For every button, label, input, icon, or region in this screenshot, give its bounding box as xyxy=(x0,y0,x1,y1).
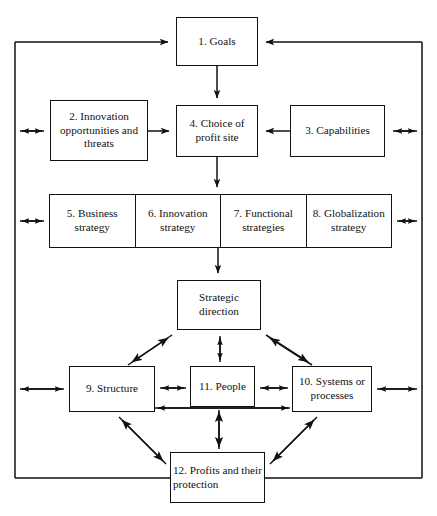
box-systems-or-processes[interactable]: 10. Systems or processes xyxy=(292,366,372,412)
box-choice-of-profit-site-label: 4. Choice of profit site xyxy=(177,117,257,145)
box-business-strategy-label: 5. Business strategy xyxy=(50,207,135,235)
box-structure-label: 9. Structure xyxy=(84,382,140,396)
box-functional-strategies[interactable]: 7. Functional strategies xyxy=(221,195,307,247)
arrow-strategic-direction-systems-b xyxy=(270,338,312,365)
box-choice-of-profit-site[interactable]: 4. Choice of profit site xyxy=(176,105,258,157)
arrow-systems-profits-b xyxy=(273,417,317,461)
box-structure[interactable]: 9. Structure xyxy=(69,366,155,412)
box-capabilities[interactable]: 3. Capabilities xyxy=(290,105,385,157)
strategy-row: 5. Business strategy 6. Innovation strat… xyxy=(49,194,392,248)
box-systems-or-processes-label: 10. Systems or processes xyxy=(293,375,371,403)
box-functional-strategies-label: 7. Functional strategies xyxy=(221,207,306,235)
box-goals[interactable]: 1. Goals xyxy=(176,17,258,66)
box-goals-label: 1. Goals xyxy=(196,35,237,49)
diagram-canvas: 1. Goals 2. Innovation opportunities and… xyxy=(0,0,437,516)
arrow-structure-profits-b xyxy=(119,417,163,461)
box-profits-and-their-protection[interactable]: 12. Profits and their protection xyxy=(170,452,265,503)
arrow-strategic-direction-structure-b xyxy=(128,338,168,365)
box-people-label: 11. People xyxy=(197,380,248,394)
diagram-connectors xyxy=(0,0,437,516)
box-innovation-opportunities-and-threats[interactable]: 2. Innovation opportunities and threats xyxy=(50,100,148,161)
box-capabilities-label: 3. Capabilities xyxy=(303,124,372,138)
box-business-strategy[interactable]: 5. Business strategy xyxy=(50,195,136,247)
box-globalization-strategy-label: 8. Globalization strategy xyxy=(307,207,392,235)
box-profits-label: 12. Profits and their protection xyxy=(171,464,264,492)
box-strategic-direction[interactable]: Strategic direction xyxy=(177,280,261,330)
box-innovation-strategy-label: 6. Innovation strategy xyxy=(136,207,221,235)
box-strategic-direction-label: Strategic direction xyxy=(178,291,260,319)
box-globalization-strategy[interactable]: 8. Globalization strategy xyxy=(307,195,392,247)
box-innovation-strategy[interactable]: 6. Innovation strategy xyxy=(136,195,222,247)
box-innovation-opportunities-label: 2. Innovation opportunities and threats xyxy=(51,110,147,151)
box-people[interactable]: 11. People xyxy=(190,366,255,407)
